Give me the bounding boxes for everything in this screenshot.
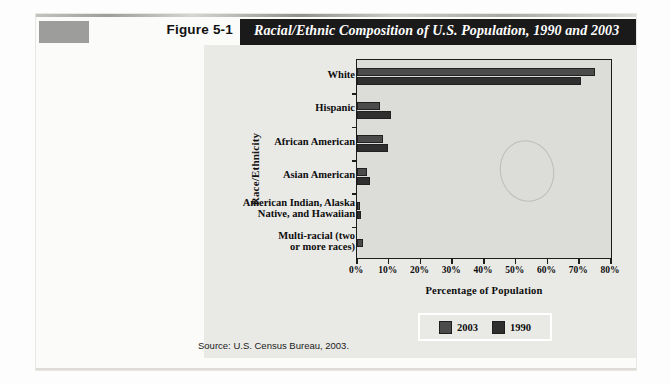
y-axis-tick-label-line: Native, and Hawaiian — [218, 208, 355, 220]
legend-label-1990: 1990 — [510, 322, 531, 333]
bar-1990-white — [357, 77, 581, 85]
chart-legend: 20031990 — [418, 313, 552, 341]
y-axis-tick-labels: WhiteHispanicAfrican AmericanAsian Ameri… — [218, 59, 355, 259]
y-axis-tick-label: African American — [218, 136, 355, 148]
x-axis-title: Percentage of Population — [356, 285, 612, 296]
y-axis-tick-label-line: or more races) — [218, 241, 355, 253]
bar-2003-asian-american — [357, 168, 367, 176]
y-axis-tick-label: Multi-racial (twoor more races) — [218, 230, 355, 253]
y-axis-tick — [352, 193, 357, 195]
x-axis-tick — [420, 259, 422, 264]
plot-region — [356, 59, 464, 259]
legend-label-2003: 2003 — [457, 322, 478, 333]
bar-1990-asian-american — [357, 177, 370, 185]
legend-item-1990: 1990 — [492, 321, 531, 334]
y-axis-tick — [352, 127, 357, 129]
y-axis-tick-label-line: African American — [218, 136, 355, 148]
figure-color-swatch — [39, 21, 89, 43]
x-axis-tick — [483, 259, 485, 264]
y-axis-tick-label-line: Multi-racial (two — [218, 230, 355, 242]
y-axis-tick-label-line: White — [218, 69, 355, 81]
x-axis-tick-label: 0% — [339, 265, 373, 275]
figure-header: Figure 5-1 Racial/Ethnic Composition of … — [36, 19, 636, 45]
x-axis-tick-label: 30% — [434, 265, 468, 275]
x-axis-tick-label: 60% — [530, 265, 564, 275]
bar-2003-white — [357, 68, 595, 76]
x-axis-tick — [515, 259, 517, 264]
legend-swatch-2003 — [439, 321, 452, 334]
chart-area: Race/Ethnicity WhiteHispanicAfrican Amer… — [204, 45, 636, 358]
x-axis-tick-label: 20% — [403, 265, 437, 275]
x-axis-tick-label: 10% — [371, 265, 405, 275]
y-axis-tick-label: American Indian, AlaskaNative, and Hawai… — [218, 197, 355, 220]
bar-2003-american-indian-alaska-native-and-hawaiian — [357, 202, 360, 210]
y-axis-tick-label-line: American Indian, Alaska — [218, 197, 355, 209]
x-axis-tick — [356, 259, 358, 264]
y-axis-tick-label: White — [218, 69, 355, 81]
x-axis-tick-label: 70% — [561, 265, 595, 275]
x-axis-tick-label: 80% — [593, 265, 627, 275]
bar-2003-multi-racial-two-or-more-races — [357, 239, 363, 247]
bar-2003-hispanic — [357, 102, 380, 110]
scan-edge-artifact — [36, 14, 636, 17]
x-axis-tick-label: 40% — [466, 265, 500, 275]
y-axis-tick-label: Hispanic — [218, 102, 355, 114]
y-axis-tick-label-line: Hispanic — [218, 102, 355, 114]
y-axis-tick — [352, 160, 357, 162]
y-axis-tick — [352, 93, 357, 95]
bar-1990-african-american — [357, 144, 388, 152]
page-bottom-edge — [36, 368, 636, 370]
x-axis-tick — [388, 259, 390, 264]
bar-2003-african-american — [357, 135, 383, 143]
legend-item-2003: 2003 — [439, 321, 478, 334]
figure-number: Figure 5-1 — [98, 22, 233, 37]
x-axis-tick — [451, 259, 453, 264]
figure-title: Racial/Ethnic Composition of U.S. Popula… — [254, 23, 630, 39]
x-axis-tick — [610, 259, 612, 264]
figure-title-bar: Racial/Ethnic Composition of U.S. Popula… — [240, 19, 636, 45]
legend-swatch-1990 — [492, 321, 505, 334]
y-axis-tick-label-line: Asian American — [218, 169, 355, 181]
figure-source-note: Source: U.S. Census Bureau, 2003. — [198, 340, 349, 351]
x-axis-tick — [578, 259, 580, 264]
y-axis-tick-label: Asian American — [218, 169, 355, 181]
x-axis-tick-label: 50% — [498, 265, 532, 275]
plot-frame — [356, 59, 612, 259]
y-axis-tick — [352, 227, 357, 229]
bar-1990-american-indian-alaska-native-and-hawaiian — [357, 211, 361, 219]
scanned-page-canvas: Figure 5-1 Racial/Ethnic Composition of … — [0, 0, 671, 384]
x-axis-tick — [547, 259, 549, 264]
bar-1990-hispanic — [357, 111, 391, 119]
